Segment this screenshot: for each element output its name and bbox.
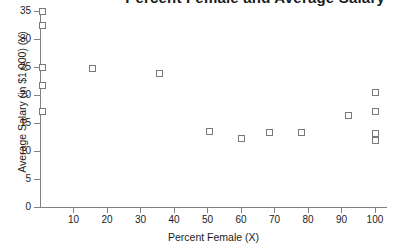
data-point — [39, 82, 46, 89]
x-tick-label: 80 — [291, 214, 325, 225]
data-point — [372, 137, 379, 144]
x-tick-mark — [308, 208, 309, 213]
data-point — [89, 65, 96, 72]
x-axis-title: Percent Female (X) — [40, 231, 387, 243]
data-point — [298, 129, 305, 136]
data-point — [372, 89, 379, 96]
y-axis-title: Average Salary (in $1,000) (Y) — [16, 12, 28, 192]
data-point — [39, 22, 46, 29]
x-tick-mark — [73, 208, 74, 213]
data-point — [39, 8, 46, 15]
x-tick-mark — [274, 208, 275, 213]
x-tick-mark — [107, 208, 108, 213]
x-tick-label: 90 — [324, 214, 358, 225]
x-tick-mark — [375, 208, 376, 213]
y-tick-label: 0 — [0, 202, 31, 212]
y-tick-mark — [34, 207, 40, 208]
x-tick-label: 20 — [90, 214, 124, 225]
data-point — [206, 128, 213, 135]
chart-title: Percent Female and Average Salary — [125, 0, 385, 6]
data-point — [266, 129, 273, 136]
chart-title-clipped: Percent Female and Average Salary — [0, 0, 403, 7]
x-tick-label: 30 — [123, 214, 157, 225]
x-tick-label: 100 — [358, 214, 392, 225]
x-tick-mark — [241, 208, 242, 213]
data-point — [39, 64, 46, 71]
plot-area — [40, 11, 385, 207]
x-tick-label: 50 — [190, 214, 224, 225]
x-axis-line — [40, 207, 387, 208]
data-point — [39, 108, 46, 115]
data-point — [372, 108, 379, 115]
x-tick-label: 60 — [224, 214, 258, 225]
x-tick-mark — [140, 208, 141, 213]
data-point — [345, 112, 352, 119]
data-point — [238, 135, 245, 142]
x-tick-label: 10 — [56, 214, 90, 225]
data-point — [372, 130, 379, 137]
x-tick-mark — [341, 208, 342, 213]
x-tick-label: 40 — [157, 214, 191, 225]
data-point — [156, 70, 163, 77]
x-tick-mark — [174, 208, 175, 213]
scatter-plot-figure: Percent Female and Average Salary 051015… — [0, 0, 403, 248]
x-tick-mark — [207, 208, 208, 213]
x-tick-label: 70 — [257, 214, 291, 225]
